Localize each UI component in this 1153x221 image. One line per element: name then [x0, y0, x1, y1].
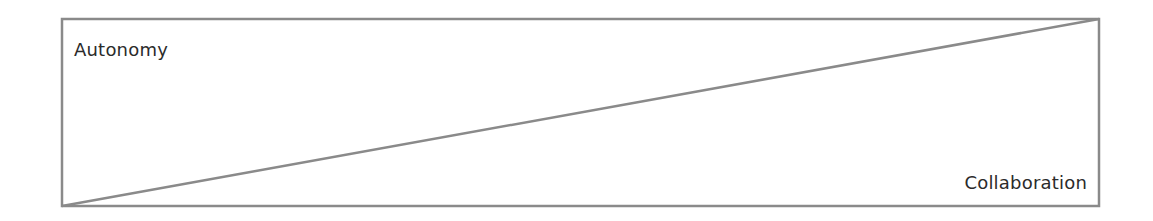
autonomy-label: Autonomy: [74, 39, 168, 60]
diagonal-divider: [62, 19, 1099, 206]
collaboration-label: Collaboration: [964, 172, 1087, 193]
